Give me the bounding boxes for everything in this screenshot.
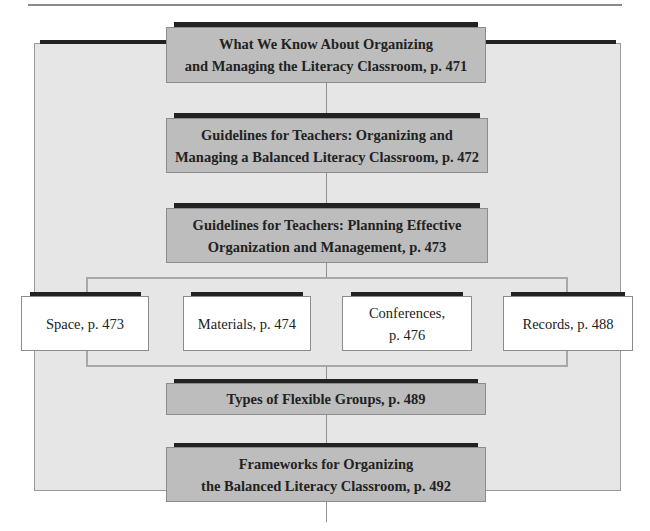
connector-3: [326, 263, 327, 278]
bottom-box-2-label: Frameworks for Organizing the Balanced L…: [201, 453, 451, 497]
background-panel: [34, 43, 621, 491]
sub-bracket: [86, 277, 568, 367]
main-box-1: Guidelines for Teachers: Organizing and …: [166, 118, 488, 173]
sub-box-records: Records, p. 488: [503, 296, 633, 351]
sub-box-materials-label: Materials, p. 474: [198, 313, 296, 335]
sub-box-space-label: Space, p. 473: [46, 313, 124, 335]
main-box-2-label: Guidelines for Teachers: Planning Effect…: [193, 214, 462, 258]
bottom-box-1-label: Types of Flexible Groups, p. 489: [227, 388, 426, 410]
top-rule: [28, 4, 622, 6]
sub-box-records-label: Records, p. 488: [522, 313, 613, 335]
sub-box-conferences: Conferences, p. 476: [342, 296, 472, 351]
connector-6: [326, 502, 327, 522]
main-box-1-label: Guidelines for Teachers: Organizing and …: [175, 124, 479, 168]
top-box: What We Know About Organizing and Managi…: [166, 27, 486, 83]
bottom-box-2: Frameworks for Organizing the Balanced L…: [166, 447, 486, 502]
sub-box-materials: Materials, p. 474: [183, 296, 311, 351]
sub-box-conferences-label: Conferences, p. 476: [369, 302, 445, 346]
main-box-2: Guidelines for Teachers: Planning Effect…: [166, 208, 488, 263]
panel-bar-left: [40, 40, 170, 44]
sub-box-space: Space, p. 473: [21, 296, 149, 351]
bottom-box-1: Types of Flexible Groups, p. 489: [166, 383, 486, 415]
top-box-label: What We Know About Organizing and Managi…: [185, 33, 468, 77]
panel-bar-right: [486, 40, 616, 44]
